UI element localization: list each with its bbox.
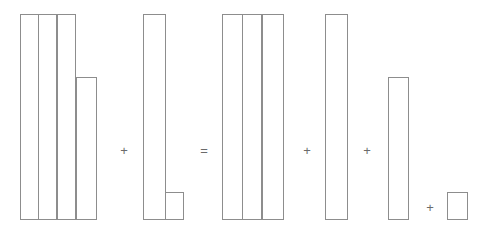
bar-cluster-result-cluster-4: [0, 0, 488, 236]
diagram-canvas: +=+++: [0, 0, 488, 236]
operator-plus-4-icon: +: [426, 201, 434, 214]
operator-plus-2-icon: +: [303, 144, 311, 157]
operator-equals-icon: =: [200, 144, 208, 157]
operator-plus-3-icon: +: [363, 144, 371, 157]
bar-result-cluster-4-bar-6: [447, 192, 468, 220]
operator-plus-1-icon: +: [120, 144, 128, 157]
